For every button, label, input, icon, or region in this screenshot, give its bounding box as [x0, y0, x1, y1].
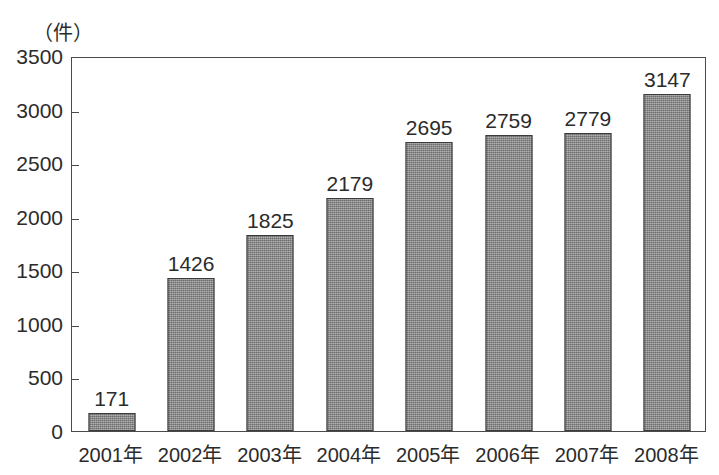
bar-slot: 2695	[390, 58, 469, 431]
y-axis-tick-label: 1000	[0, 313, 63, 337]
bar-slot: 2779	[548, 58, 627, 431]
bar-slot: 2179	[310, 58, 389, 431]
y-axis-tick-label: 3000	[0, 99, 63, 123]
bar[interactable]	[88, 413, 135, 431]
bar[interactable]	[644, 94, 691, 431]
plot-area: 1711426182521792695275927793147	[71, 57, 706, 432]
y-axis-tick-label: 0	[0, 420, 63, 444]
bar[interactable]	[406, 142, 453, 431]
x-axis-tick-label: 2003年	[237, 439, 302, 468]
bar[interactable]	[168, 278, 215, 431]
y-axis-tick-label: 1500	[0, 259, 63, 283]
bar-slot: 1825	[231, 58, 310, 431]
bar-value-label: 1426	[168, 253, 215, 274]
x-axis-tick-label: 2005年	[396, 439, 461, 468]
bar-chart: （件） 0500100015002000250030003500 1711426…	[0, 0, 719, 475]
y-axis-tick-label: 3500	[0, 45, 63, 69]
x-axis-tick-label: 2002年	[158, 439, 223, 468]
bar-slot: 171	[72, 58, 151, 431]
bar-slot: 3147	[628, 58, 707, 431]
x-axis-tick-label: 2006年	[475, 439, 540, 468]
x-axis-tick-label: 2004年	[317, 439, 382, 468]
bar-value-label: 2179	[326, 173, 373, 194]
bar-slot: 2759	[469, 58, 548, 431]
bar-value-label: 2695	[406, 117, 453, 138]
x-axis-tick-label: 2007年	[555, 439, 620, 468]
x-axis-tick-label: 2008年	[634, 439, 699, 468]
bar[interactable]	[564, 133, 611, 431]
bar-value-label: 3147	[644, 69, 691, 90]
bar-slot: 1426	[151, 58, 230, 431]
y-axis-tick-label: 500	[0, 366, 63, 390]
bar-value-label: 2759	[485, 110, 532, 131]
bar[interactable]	[326, 198, 373, 431]
bar[interactable]	[247, 235, 294, 431]
bar-value-label: 2779	[565, 108, 612, 129]
bar-value-label: 171	[94, 388, 129, 409]
bar-value-label: 1825	[247, 210, 294, 231]
y-axis-unit-label: （件）	[33, 17, 93, 46]
y-axis-tick-label: 2500	[0, 152, 63, 176]
x-axis-tick-label: 2001年	[78, 439, 143, 468]
bar[interactable]	[485, 135, 532, 431]
y-axis-tick-label: 2000	[0, 206, 63, 230]
